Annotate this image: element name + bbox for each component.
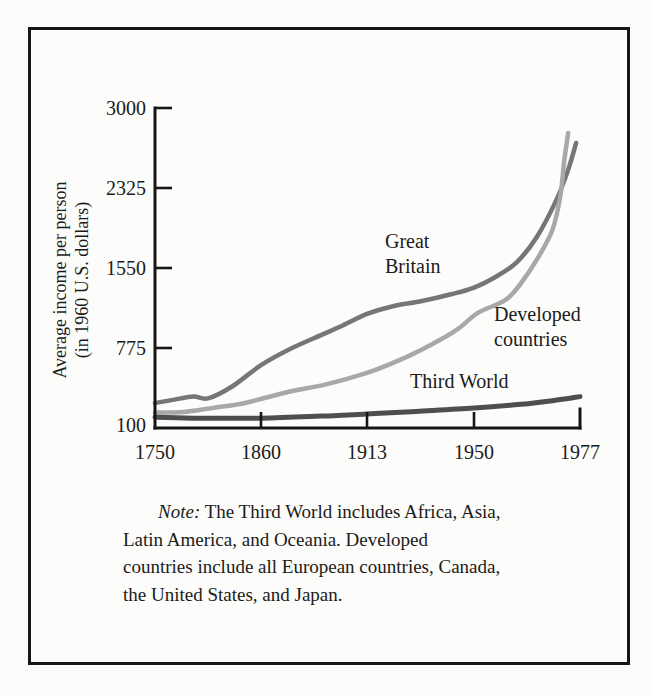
x-tick-label-1950: 1950 [442, 441, 506, 463]
note-line4: the United States, and Japan. [123, 581, 558, 609]
y-tick-label-2325: 2325 [88, 177, 146, 199]
y-tick-label-1550: 1550 [88, 257, 146, 279]
y-tick-label-100: 100 [88, 414, 146, 436]
y-axis-title: Average income per person (in 1960 U.S. … [49, 147, 93, 413]
x-tick-label-1860: 1860 [229, 441, 293, 463]
great-britain-label: Great Britain [385, 229, 441, 279]
x-tick-label-1977: 1977 [548, 441, 612, 463]
third-world-label: Third World [410, 369, 509, 394]
figure: Average income per person (in 1960 U.S. … [0, 0, 652, 695]
great-britain-line [155, 143, 576, 403]
y-tick-label-3000: 3000 [88, 97, 146, 119]
y-axis-title-line1: Average income per person [49, 147, 71, 413]
developed-countries-label: Developed countries [494, 302, 581, 352]
x-tick-label-1913: 1913 [335, 441, 399, 463]
note-line1: Note: The Third World includes Africa, A… [123, 498, 558, 526]
y-tick-label-775: 775 [88, 337, 146, 359]
note-label: Note: [158, 501, 200, 522]
x-tick-label-1750: 1750 [123, 441, 187, 463]
note-text: Note: The Third World includes Africa, A… [123, 498, 558, 608]
note-line3: countries include all European countries… [123, 553, 558, 581]
note-line2: Latin America, and Oceania. Developed [123, 526, 558, 554]
